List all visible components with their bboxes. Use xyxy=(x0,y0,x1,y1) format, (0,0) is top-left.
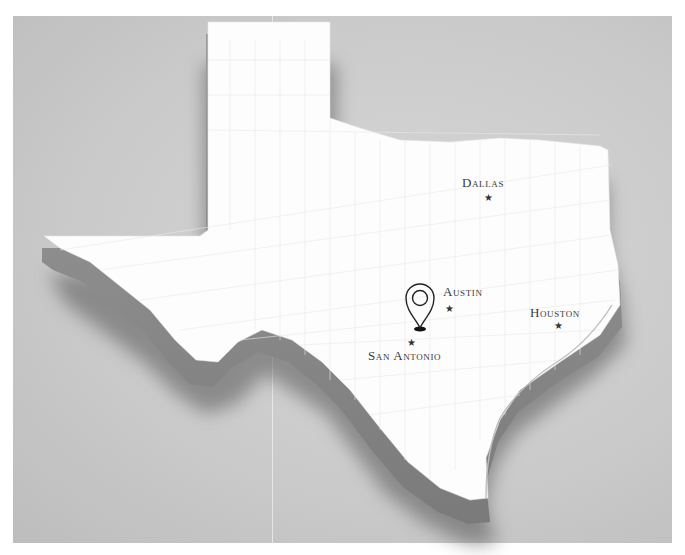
star-icon: ★ xyxy=(445,304,454,314)
city-label-austin: Austin xyxy=(443,284,483,300)
star-icon: ★ xyxy=(484,193,493,203)
city-label-dallas: Dallas xyxy=(462,175,504,191)
star-icon: ★ xyxy=(554,321,563,331)
texas-map xyxy=(0,0,685,555)
star-icon: ★ xyxy=(407,338,416,348)
city-label-san-antonio: San Antonio xyxy=(368,348,441,364)
city-label-houston: Houston xyxy=(530,305,580,321)
